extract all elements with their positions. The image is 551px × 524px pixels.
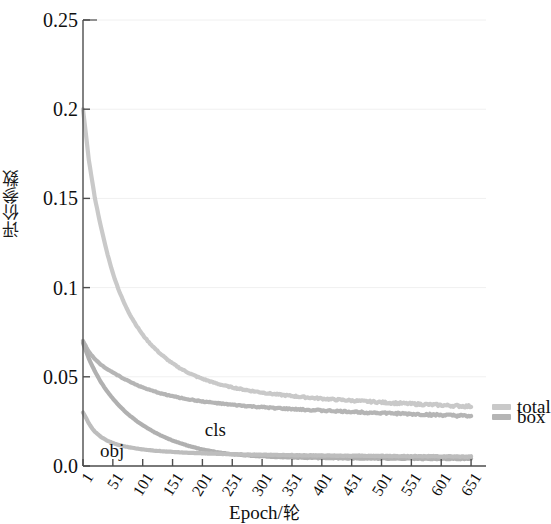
y-tick-marks — [83, 20, 90, 466]
legend-item-box: box — [492, 407, 546, 426]
series-annotation-cls: cls — [205, 420, 226, 439]
axis-frame — [83, 20, 486, 466]
series-curves — [83, 109, 471, 459]
legend-label-box: box — [517, 407, 546, 426]
x-axis-title-cjk: 轮 — [283, 503, 300, 523]
x-axis-title-latin: Epoch/ — [229, 502, 283, 523]
series-annotation-obj: obj — [100, 441, 124, 460]
x-axis-title: Epoch/轮 — [0, 503, 529, 523]
series-line-obj — [83, 413, 471, 457]
gridlines — [83, 20, 486, 377]
series-line-total — [83, 109, 471, 407]
legend-swatch-box — [492, 414, 511, 420]
